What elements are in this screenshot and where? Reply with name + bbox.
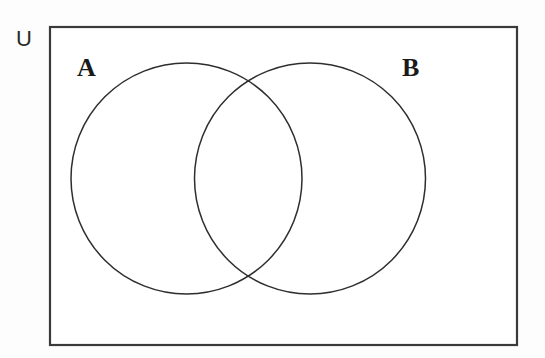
venn-diagram-svg: U A B [0, 0, 545, 358]
set-b-label: B [402, 53, 419, 82]
set-a-label: A [77, 53, 96, 82]
universal-set-label: U [16, 26, 32, 51]
venn-diagram-canvas: U A B [0, 0, 545, 358]
universal-set-rectangle [50, 27, 517, 345]
